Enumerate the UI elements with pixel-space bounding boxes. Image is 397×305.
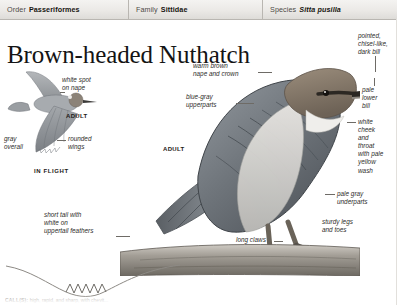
annotation-sturdy-legs-and-toes: sturdy legs and toes [322,218,380,234]
leader-line-wings [57,140,66,141]
leader-line-tail [116,236,130,237]
leader-line-upperparts [236,103,254,104]
annotation-pale-lower-bill: pale lower bill [362,86,394,110]
taxonomy-key-family: Family [136,5,158,14]
annotation-pointed-chisel-like-dark-bill: pointed, chisel-like, dark bill [358,32,396,56]
taxonomy-value-family: Sittidae [161,5,188,14]
taxonomy-key-species: Species [270,5,296,14]
annotation-rounded-wings: rounded wings [68,135,112,151]
leader-line-cheek [347,122,356,123]
annotation-blue-gray-upperparts: blue-gray upperparts [186,93,238,109]
flight-age-label: ADULT [66,112,88,120]
sonogram-caption: CALL(S): high, rapid, and sharp, with ch… [5,297,205,303]
leader-line-bill [375,56,376,72]
sonogram-caption-text: high, rapid, and sharp, with chevit... [30,297,109,303]
perched-age-label: ADULT [163,145,185,153]
leader-line-nape [60,92,65,93]
call-sonogram [4,262,184,302]
taxonomy-cell-family: Family Sittidae [128,0,262,19]
leader-line-underparts [325,194,335,195]
annotation-white-cheek-and-throat: white cheek and throat with pale yellow … [358,118,396,175]
taxonomy-key-order: Order [7,5,26,14]
taxonomy-value-order: Passeriformes [29,5,80,14]
leader-line-crown [258,72,272,73]
annotation-pale-gray-underparts: pale gray underparts [337,190,395,206]
taxonomy-cell-order: Order Passeriformes [0,0,128,19]
flight-plate-caption: IN FLIGHT [34,167,69,175]
leader-line-lower-bill [374,78,375,86]
taxonomy-cell-species: Species Sitta pusilla [262,0,397,19]
annotation-gray-overall: gray overall [4,135,38,151]
taxonomy-value-species: Sitta pusilla [299,5,341,14]
sonogram-caption-key: CALL(S): [5,297,28,303]
annotation-warm-brown-nape-and-crown: warm brown nape and crown [193,62,259,78]
taxonomy-bar: Order Passeriformes Family Sittidae Spec… [0,0,397,20]
leader-line-claws [274,241,283,242]
field-guide-page: Order Passeriformes Family Sittidae Spec… [0,0,397,305]
annotation-short-tail-white-uppertail: short tail with white on uppertail feath… [44,211,116,235]
annotation-white-spot-on-nape: white spot on nape [62,76,114,92]
annotation-long-claws: long claws [236,236,276,244]
